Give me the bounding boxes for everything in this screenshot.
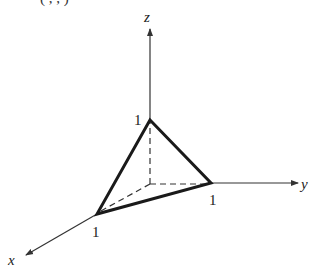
y-intercept-label: 1 [209, 192, 217, 208]
z-axis-label: z [143, 9, 150, 25]
x-axis [26, 214, 97, 255]
z-intercept-label: 1 [134, 112, 142, 128]
caption-fragment: ( , , ) [40, 0, 69, 7]
diagram-canvas: ( , , ) z y x 1 1 1 [0, 0, 312, 271]
triangle-plane [97, 120, 211, 214]
y-axis-label: y [299, 176, 308, 192]
x-intercept-label: 1 [92, 224, 100, 240]
x-axis-label: x [7, 252, 15, 268]
